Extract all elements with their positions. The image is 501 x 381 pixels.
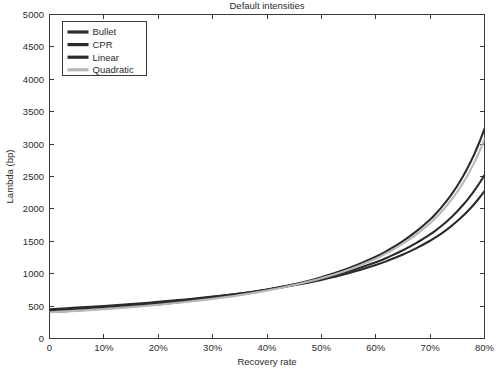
x-axis-tick-label: 20% <box>149 342 169 353</box>
y-axis-tick-label: 0 <box>39 333 44 344</box>
legend-label-quadratic: Quadratic <box>93 64 134 75</box>
y-axis-tick-label: 1500 <box>23 236 44 247</box>
figure-canvas: Default intensities 05001000150020002500… <box>0 0 501 381</box>
series-line-quadratic <box>50 117 496 312</box>
y-axis-tick-label: 4500 <box>23 41 44 52</box>
x-axis-tick-label: 30% <box>203 342 223 353</box>
x-axis-title: Recovery rate <box>237 356 296 367</box>
y-axis-title: Lambda (bp) <box>4 150 15 204</box>
legend-label-linear: Linear <box>93 52 119 63</box>
y-axis-tick-label: 3500 <box>23 106 44 117</box>
x-axis-tick-label: 60% <box>366 342 386 353</box>
title-layer: Default intensities <box>230 0 305 11</box>
series-line-cpr <box>50 157 496 310</box>
legend-label-bullet: Bullet <box>93 26 117 37</box>
legend-label-cpr: CPR <box>93 39 113 50</box>
page-title: Default intensities <box>230 0 305 11</box>
y-axis-tick-label: 2500 <box>23 171 44 182</box>
series-line-linear <box>50 106 496 312</box>
y-axis-tick-label: 4000 <box>23 74 44 85</box>
x-axis-tick-label: 70% <box>421 342 441 353</box>
chart-plot: Default intensities 05001000150020002500… <box>0 0 501 381</box>
y-axis-tick-label: 1000 <box>23 268 44 279</box>
x-axis-tick-label: 0 <box>47 342 52 353</box>
x-axis-tick-label: 40% <box>257 342 277 353</box>
y-axis-tick-label: 3000 <box>23 139 44 150</box>
x-axis-tick-label: 50% <box>312 342 332 353</box>
legend-layer[interactable]: BulletCPRLinearQuadratic <box>63 22 147 76</box>
y-axis-tick-label: 500 <box>28 301 44 312</box>
y-axis-tick-label: 2000 <box>23 203 44 214</box>
y-axis-tick-label: 5000 <box>23 9 44 20</box>
x-axis-tick-label: 80% <box>475 342 495 353</box>
x-axis-tick-label: 10% <box>94 342 114 353</box>
series-layer <box>50 106 496 313</box>
